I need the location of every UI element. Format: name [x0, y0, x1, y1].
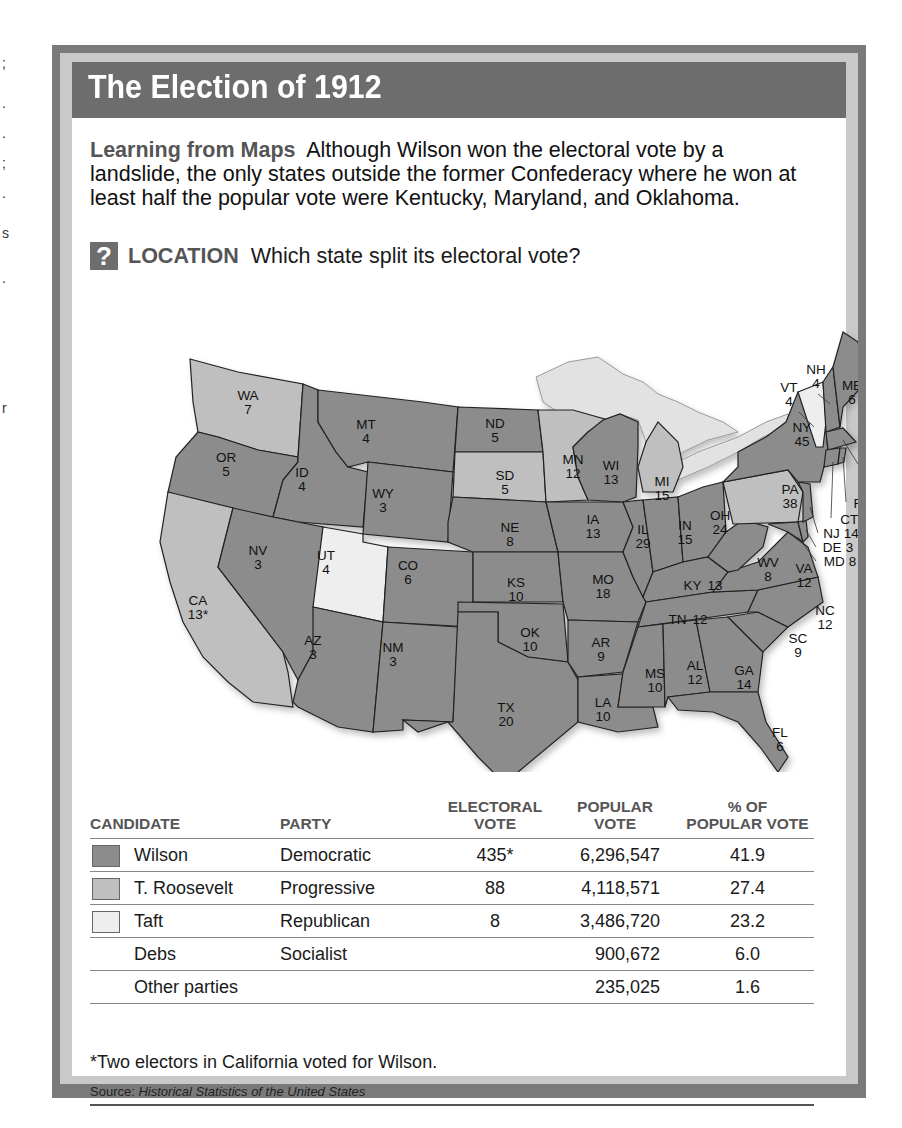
- state-WY[interactable]: [363, 462, 453, 542]
- state-FL[interactable]: [668, 692, 788, 772]
- edge-mark: .: [2, 95, 6, 111]
- results-table: CANDIDATE PARTY ELECTORALVOTE POPULARVOT…: [90, 790, 814, 1004]
- table-row-other: Other parties 235,025 1.6: [90, 971, 814, 1004]
- candidate-name: Taft: [134, 911, 163, 932]
- electoral-vote: 88: [440, 878, 550, 899]
- header-electoral: ELECTORALVOTE: [440, 798, 550, 832]
- question-label: LOCATION: [128, 244, 239, 269]
- popular-vote: 235,025: [550, 977, 660, 998]
- popular-percent: 6.0: [680, 944, 815, 965]
- header-party: PARTY: [280, 815, 331, 832]
- table-header: CANDIDATE PARTY ELECTORALVOTE POPULARVOT…: [90, 790, 814, 839]
- footnote: *Two electors in California voted for Wi…: [90, 1052, 437, 1073]
- popular-vote: 900,672: [550, 944, 660, 965]
- intro-paragraph: Learning from Maps Although Wilson won t…: [90, 138, 810, 210]
- popular-percent: 41.9: [680, 845, 815, 866]
- state-NM[interactable]: [373, 622, 458, 732]
- svg-text:VA12: VA12: [795, 561, 812, 590]
- candidate-name: Wilson: [134, 845, 188, 866]
- edge-mark: r: [2, 400, 7, 416]
- party-name: Democratic: [280, 845, 371, 866]
- svg-text:NJ14: NJ14: [823, 526, 858, 541]
- edge-mark: .: [2, 125, 6, 141]
- svg-text:GA14: GA14: [734, 663, 754, 692]
- table-row-debs: Debs Socialist 900,672 6.0: [90, 938, 814, 971]
- source-citation: Source: Historical Statistics of the Uni…: [90, 1084, 365, 1099]
- svg-text:KS10: KS10: [507, 575, 525, 604]
- svg-text:RI5: RI5: [853, 496, 858, 511]
- bottom-rule: [90, 1104, 814, 1106]
- source-label: Source:: [90, 1084, 135, 1099]
- party-name: Republican: [280, 911, 370, 932]
- page-title: The Election of 1912: [88, 68, 382, 106]
- intro-lead: Learning from Maps: [90, 138, 295, 162]
- svg-text:CA13*: CA13*: [188, 593, 209, 622]
- svg-text:DE3: DE3: [823, 540, 853, 555]
- adjacent-page-edge-text: ; . . ; . s . r: [0, 0, 12, 420]
- table-row-roosevelt: T. Roosevelt Progressive 88 4,118,571 27…: [90, 872, 814, 905]
- party-name: Socialist: [280, 944, 347, 965]
- svg-text:LA10: LA10: [595, 695, 612, 724]
- state-RI[interactable]: [838, 448, 846, 464]
- header-percent: % OFPOPULAR VOTE: [680, 798, 815, 832]
- edge-mark: ;: [2, 55, 6, 71]
- electoral-vote: 8: [440, 911, 550, 932]
- svg-text:AL12: AL12: [687, 658, 704, 687]
- svg-text:TX20: TX20: [497, 700, 514, 729]
- svg-text:NC12: NC12: [815, 603, 835, 632]
- popular-percent: 23.2: [680, 911, 815, 932]
- figure-frame: The Election of 1912 Learning from Maps …: [52, 45, 866, 1098]
- table-row-taft: Taft Republican 8 3,486,720 23.2: [90, 905, 814, 938]
- figure-panel: The Election of 1912 Learning from Maps …: [72, 62, 846, 1076]
- popular-percent: 27.4: [680, 878, 815, 899]
- popular-percent: 1.6: [680, 977, 815, 998]
- svg-text:MN12: MN12: [563, 452, 584, 481]
- svg-text:SC9: SC9: [789, 631, 808, 660]
- header-candidate: CANDIDATE: [90, 815, 180, 832]
- popular-vote: 3,486,720: [550, 911, 660, 932]
- legend-swatch-wilson: [92, 845, 120, 867]
- party-name: Progressive: [280, 878, 375, 899]
- svg-text:IA13: IA13: [585, 512, 600, 541]
- svg-text:OK10: OK10: [520, 625, 540, 654]
- svg-text:OH24: OH24: [710, 508, 730, 537]
- question-text: Which state split its electoral vote?: [251, 244, 581, 269]
- legend-swatch-taft: [92, 911, 120, 933]
- svg-text:IN15: IN15: [677, 518, 692, 547]
- electoral-vote: 435*: [440, 845, 550, 866]
- location-question: ? LOCATION Which state split its elector…: [90, 242, 580, 270]
- question-mark-icon: ?: [90, 242, 118, 270]
- popular-vote: 4,118,571: [550, 878, 660, 899]
- svg-text:MI15: MI15: [654, 474, 669, 503]
- title-bar: The Election of 1912: [72, 62, 846, 118]
- header-popular: POPULARVOTE: [560, 798, 670, 832]
- edge-mark: .: [2, 270, 6, 286]
- popular-vote: 6,296,547: [550, 845, 660, 866]
- map-svg: WA7 OR5 CA13* ID4 NV3 MT4 WY3 UT4 AZ3 CO…: [98, 302, 858, 772]
- svg-text:CT7: CT7: [840, 512, 858, 527]
- svg-text:MS10: MS10: [645, 666, 665, 695]
- edge-mark: s: [2, 225, 9, 241]
- us-electoral-map: WA7 OR5 CA13* ID4 NV3 MT4 WY3 UT4 AZ3 CO…: [98, 302, 858, 772]
- candidate-name: T. Roosevelt: [134, 878, 233, 899]
- svg-text:MD8: MD8: [824, 554, 857, 569]
- state-MA[interactable]: [826, 428, 856, 450]
- svg-text:NY45: NY45: [793, 420, 812, 449]
- legend-swatch-roosevelt: [92, 878, 120, 900]
- svg-text:IL29: IL29: [635, 522, 650, 551]
- svg-text:PA38: PA38: [781, 482, 798, 511]
- frame-band: The Election of 1912 Learning from Maps …: [60, 53, 858, 1084]
- svg-text:WI13: WI13: [603, 458, 620, 487]
- table-row-wilson: Wilson Democratic 435* 6,296,547 41.9: [90, 839, 814, 872]
- candidate-name: Other parties: [134, 977, 238, 998]
- edge-mark: ;: [2, 155, 6, 171]
- candidate-name: Debs: [134, 944, 176, 965]
- source-title: Historical Statistics of the United Stat…: [138, 1084, 365, 1099]
- edge-mark: .: [2, 185, 6, 201]
